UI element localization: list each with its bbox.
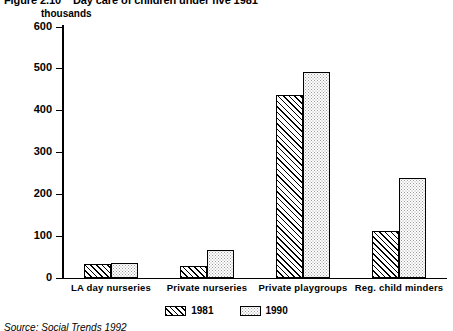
y-axis-tick-label: 200 <box>34 187 52 199</box>
bar-1981-reg-child-minders <box>372 231 399 278</box>
figure-number: Figure 2.10 <box>4 0 61 6</box>
y-axis-tick-label: 600 <box>34 20 52 32</box>
legend-item-1990: 1990 <box>240 305 288 316</box>
legend-item-1981: 1981 <box>165 305 213 316</box>
bar-1990-private-playgroups <box>303 72 330 278</box>
bar-1981-private-nurseries <box>180 266 207 278</box>
y-axis-tick-label: 300 <box>34 145 52 157</box>
bar-1990-la-day-nurseries <box>111 263 138 278</box>
y-axis-tick: 500 <box>56 68 62 69</box>
source-note: Source: Social Trends 1992 <box>4 322 127 331</box>
y-axis-tick: 0 <box>56 278 62 279</box>
bar-1990-reg-child-minders <box>399 178 426 278</box>
x-axis-category-label: Reg. child minders <box>351 282 447 293</box>
x-axis-category-label: Private nurseries <box>159 282 255 293</box>
y-axis-tick-label: 0 <box>46 271 52 283</box>
x-axis-category-label: LA day nurseries <box>63 282 159 293</box>
y-axis-tick-label: 500 <box>34 61 52 73</box>
y-axis-tick: 100 <box>56 236 62 237</box>
figure-title: Figure 2.10Day care of children under fi… <box>4 0 258 6</box>
bar-1981-private-playgroups <box>276 95 303 278</box>
y-axis-tick-label: 400 <box>34 103 52 115</box>
y-axis-tick: 300 <box>56 152 62 153</box>
legend-swatch-1990 <box>240 306 261 316</box>
figure-title-text: Day care of children under five 1981 <box>73 0 258 6</box>
legend-label-1981: 1981 <box>191 305 213 316</box>
x-axis-category-label: Private playgroups <box>255 282 351 293</box>
bar-1981-la-day-nurseries <box>84 264 111 278</box>
chart-legend: 1981 1990 <box>0 305 453 316</box>
y-axis-tick: 400 <box>56 110 62 111</box>
y-axis-tick: 600 <box>56 27 62 28</box>
legend-swatch-1981 <box>165 306 186 316</box>
bar-1990-private-nurseries <box>207 250 234 278</box>
plot-area <box>63 27 447 278</box>
y-axis-tick: 200 <box>56 194 62 195</box>
legend-label-1990: 1990 <box>266 305 288 316</box>
y-axis-tick-label: 100 <box>34 229 52 241</box>
y-axis-units-label: thousands <box>41 8 92 19</box>
